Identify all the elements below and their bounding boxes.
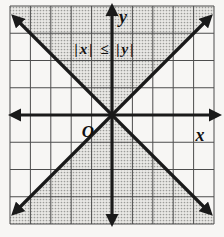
math-figure: y x O |x| ≤ |y| — [0, 0, 224, 237]
x-axis-label: x — [195, 125, 205, 145]
inequality-label: |x| ≤ |y| — [74, 41, 135, 57]
y-axis-label: y — [117, 7, 128, 27]
origin-label: O — [82, 122, 94, 141]
figure-canvas: y x O |x| ≤ |y| — [0, 0, 224, 237]
